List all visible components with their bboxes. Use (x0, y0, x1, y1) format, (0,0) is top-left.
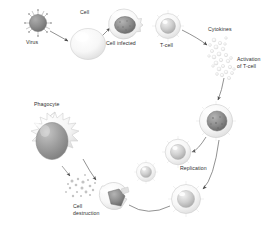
destroyed-cell (99, 182, 129, 209)
label-cell-destruction-line2: destruction (73, 210, 99, 216)
label-cell-infected: Cell infected (106, 40, 136, 46)
label-activation-line1: Activation (237, 56, 261, 62)
diagram-canvas (0, 0, 275, 239)
label-replication: Replication (180, 165, 207, 171)
arrow-virus-to-cell (50, 31, 68, 41)
label-phagocyte: Phagocyte (34, 101, 59, 107)
replicated-t-cell-left (134, 160, 158, 184)
replicated-t-cell-upper (162, 136, 194, 168)
t-cell (152, 10, 184, 42)
arrow-cytokines-to-activation (218, 78, 224, 100)
label-t-cell: T-cell (160, 42, 173, 48)
phagocyte-cell (27, 112, 79, 176)
virus-particle (24, 9, 52, 37)
activated-t-cell (196, 101, 236, 141)
arrow-activated-to-replication-upper (192, 137, 206, 152)
immune-response-diagram: Virus Cell Cell infected T-cell Cytokine… (0, 0, 275, 239)
label-cell-destruction-line1: Cell (73, 203, 82, 209)
label-activation-line2: of T-cell (237, 63, 256, 69)
infected-cell (109, 9, 143, 39)
cell-debris (65, 174, 96, 197)
cytokine-cluster (208, 37, 236, 80)
line-replication-to-destruction (129, 205, 170, 211)
arrow-phagocyte-to-destruction (83, 159, 96, 180)
arrow-tcell-to-cytokines (182, 30, 207, 45)
healthy-cell (71, 29, 106, 60)
label-cell: Cell (80, 9, 89, 15)
label-virus: Virus (26, 39, 38, 45)
label-cytokines: Cytokines (208, 26, 232, 32)
arrow-phagocyte-engulf (62, 166, 70, 176)
replicated-t-cell-lower (168, 181, 204, 217)
